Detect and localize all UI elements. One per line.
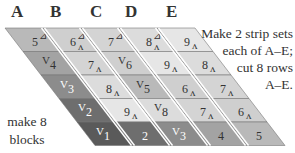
down-chevron-icon: V (60, 78, 68, 90)
strip-cell-number: 5 (144, 82, 150, 96)
strip-cell-number: 8 (106, 82, 112, 96)
make-blocks-note: make 8 blocks (2, 113, 52, 149)
strip-cell-number: 8 (146, 35, 152, 49)
strip-cell-number: 1 (104, 129, 110, 143)
strip-cell-number: 3 (180, 129, 186, 143)
strip-cell-number: 7 (200, 105, 206, 119)
strip-cell-number: 3 (68, 82, 74, 96)
down-chevron-icon: V (154, 101, 162, 113)
instructions-note: Make 2 strip sets each of A–E; cut 8 row… (153, 25, 293, 93)
up-chevron-icon: ʌ (96, 62, 102, 74)
instructions-line-1: Make 2 strip sets (153, 25, 293, 42)
down-chevron-icon: V (96, 125, 104, 137)
down-chevron-icon: V (78, 101, 86, 113)
down-chevron-icon: V (42, 54, 50, 66)
strip-cell-number: 2 (86, 105, 92, 119)
strip-piecing-diagram: A B C D E 5⊿6⊿ʌ7⊿8⊿ʌ9ʌ4V7ʌ6V9ʌ8ʌ3V8ʌ5V6ʌ… (0, 0, 295, 153)
strip-cell-number: 8 (162, 105, 168, 119)
strip-cell-number: 2 (142, 129, 148, 143)
strip-cell-number: 5 (32, 35, 38, 49)
instructions-line-4: A–E. (153, 76, 293, 93)
strip-cell-number: 6 (238, 105, 244, 119)
instructions-line-3: cut 8 rows (153, 59, 293, 76)
make-blocks-line-2: blocks (2, 131, 52, 149)
down-chevron-icon: V (136, 78, 144, 90)
strip-cell-number: 9 (124, 105, 130, 119)
strip-cell-number: 7 (108, 35, 114, 49)
up-chevron-icon: ʌ (114, 86, 120, 98)
down-chevron-icon: V (118, 54, 126, 66)
strip-cell-number: 6 (126, 58, 132, 72)
strip-cell-number: 5 (256, 129, 262, 143)
up-chevron-icon: ʌ (78, 40, 84, 52)
up-chevron-icon: ʌ (246, 109, 252, 121)
strip-cell-number: 6 (70, 35, 76, 49)
instructions-line-2: each of A–E; (153, 42, 293, 59)
down-chevron-icon: V (172, 125, 180, 137)
strip-cell-number: 7 (88, 58, 94, 72)
strip-cell-number: 4 (218, 129, 224, 143)
up-chevron-icon: ʌ (132, 109, 138, 121)
strip-cell-number: 4 (50, 58, 56, 72)
make-blocks-line-1: make 8 (2, 113, 52, 131)
up-chevron-icon: ʌ (208, 109, 214, 121)
